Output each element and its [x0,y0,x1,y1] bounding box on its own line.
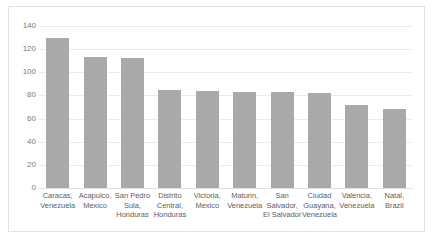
bar[interactable] [158,90,181,188]
bar[interactable] [308,93,331,188]
y-axis-tick-label: 20 [10,161,36,169]
x-axis-category-label: San Salvador, El Salvador [262,191,302,220]
bar[interactable] [271,92,294,188]
x-axis-category-label: Ciudad Guayana, Venezuela [300,191,340,220]
x-axis-category-label: San Pedro Sula, Honduras [113,191,153,220]
bar-series [39,26,413,188]
x-axis-category-label: Natal, Brazil [374,191,414,210]
y-axis: 020406080100120140 [9,26,36,188]
y-axis-tick-label: 100 [10,68,36,76]
y-axis-tick-label: 120 [10,45,36,53]
x-axis-category-label: Valencia, Venezuela [337,191,377,210]
x-axis: Caracas, VenezuelaAcapulco, MexicoSan Pe… [39,191,413,231]
y-axis-tick-label: 0 [10,184,36,192]
bar[interactable] [345,105,368,188]
chart-container: 020406080100120140 Caracas, VenezuelaAca… [8,6,425,232]
x-axis-category-label: Distrito Central, Honduras [150,191,190,220]
bar[interactable] [121,58,144,188]
y-axis-tick-label: 60 [10,115,36,123]
bar[interactable] [196,91,219,188]
gridline [39,188,413,189]
bar[interactable] [233,92,256,188]
x-axis-category-label: Caracas, Venezuela [38,191,78,210]
bar[interactable] [46,38,69,188]
bar[interactable] [383,109,406,188]
x-axis-category-label: Acapulco, Mexico [75,191,115,210]
y-axis-tick-label: 40 [10,138,36,146]
y-axis-tick-label: 80 [10,91,36,99]
y-axis-tick-label: 140 [10,22,36,30]
x-axis-category-label: Victoria, Mexico [187,191,227,210]
x-axis-category-label: Maturin, Venezuela [225,191,265,210]
bar[interactable] [84,57,107,188]
